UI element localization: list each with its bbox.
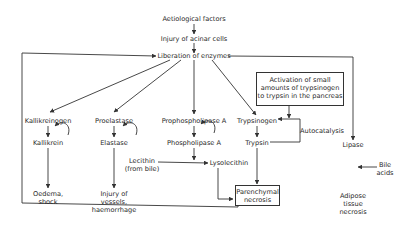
node-oedema-line1: Oedema, <box>33 190 63 198</box>
node-lecithin-line1: Lecithin <box>125 157 160 165</box>
node-kallikreinogen: Kallikreinogen <box>25 117 72 125</box>
node-lysolecithin: Lysolecithin <box>210 159 249 167</box>
node-injury-acinar-cells: Injury of acinar cells <box>161 35 228 43</box>
node-proelastase: Proelastase <box>95 117 133 125</box>
bile-acids-line2: acids <box>376 169 393 177</box>
node-trypsin: Trypsin <box>245 139 268 147</box>
node-phospholipase-a: Phospholipase A <box>167 139 221 147</box>
node-prophospholipase-a: Prophospholipase A <box>162 117 227 125</box>
adipose-line1: Adipose <box>339 192 366 200</box>
node-lecithin: Lecithin (from bile) <box>125 157 160 173</box>
parenchymal-line1: Parenchymal <box>236 188 279 196</box>
activation-line3: to trypsin in the pancreas <box>257 92 343 100</box>
node-aetiological-factors: Aetiological factors <box>162 15 225 23</box>
node-injury-vessels-line3: haemorrhage <box>92 206 136 214</box>
node-kallikrein: Kallikrein <box>33 139 63 147</box>
node-bile-acids: Bile acids <box>376 161 393 177</box>
node-autocatalysis: Autocatalysis <box>300 127 344 135</box>
adipose-line3: necrosis <box>339 208 366 216</box>
node-liberation-of-enzymes: Liberation of enzymes <box>157 52 230 60</box>
node-injury-vessels-line1: Injury of <box>92 190 136 198</box>
activation-line1: Activation of small <box>257 76 343 84</box>
node-elastase: Elastase <box>100 139 128 147</box>
node-trypsinogen: Trypsinogen <box>237 117 277 125</box>
node-injury-of-vessels: Injury of vessels, haemorrhage <box>92 190 136 214</box>
box-activation-trypsinogen: Activation of small amounts of trypsinog… <box>256 72 344 106</box>
node-lipase: Lipase <box>342 141 363 149</box>
adipose-line2: tissue <box>339 200 366 208</box>
parenchymal-line2: necrosis <box>236 196 279 204</box>
bile-acids-line1: Bile <box>376 161 393 169</box>
activation-line2: amounts of trypsinogen <box>257 84 343 92</box>
node-oedema-shock: Oedema, shock <box>33 190 63 206</box>
node-injury-vessels-line2: vessels, <box>92 198 136 206</box>
box-parenchymal-necrosis: Parenchymal necrosis <box>235 185 280 206</box>
node-lecithin-line2: (from bile) <box>125 165 160 173</box>
node-oedema-line2: shock <box>33 198 63 206</box>
node-adipose-tissue-necrosis: Adipose tissue necrosis <box>339 192 366 216</box>
